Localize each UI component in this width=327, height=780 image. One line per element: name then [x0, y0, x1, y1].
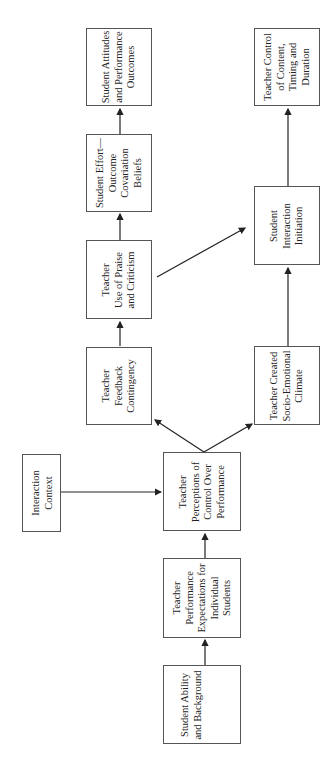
- node-label: Student Effort— Outcome Covariation Beli…: [94, 138, 144, 208]
- edge-perceptions-to-feedback: [155, 420, 204, 452]
- node-label: Student Interaction Initiation: [268, 203, 306, 248]
- node-label: Student Attitudes and Performance Outcom…: [100, 31, 138, 104]
- node-praise-criticism: Teacher Use of Praise and Criticism: [86, 240, 152, 319]
- node-teacher-control: Teacher Control of Content, Timing and D…: [254, 28, 320, 106]
- node-label: Teacher Performance Expectations for Ind…: [171, 563, 234, 632]
- node-student-attitudes: Student Attitudes and Performance Outcom…: [86, 28, 152, 106]
- node-label: Teacher Feedback Contingency: [100, 359, 138, 413]
- node-performance-expectations: Teacher Performance Expectations for Ind…: [163, 558, 241, 638]
- node-label: Teacher Perceptions of Control Over Perf…: [177, 461, 227, 521]
- node-student-ability: Student Ability and Background: [163, 665, 241, 744]
- node-label: Teacher Created Socio-Emotional Climate: [268, 350, 306, 421]
- node-label: Teacher Control of Content, Timing and D…: [262, 33, 312, 101]
- node-socio-emotional: Teacher Created Socio-Emotional Climate: [254, 346, 320, 425]
- node-student-effort: Student Effort— Outcome Covariation Beli…: [86, 134, 152, 212]
- node-interaction-context: Interaction Context: [22, 454, 61, 532]
- node-perceptions-control: Teacher Perceptions of Control Over Perf…: [163, 452, 241, 531]
- node-label: Interaction Context: [29, 470, 54, 515]
- edge-perceptions-to-socio: [204, 424, 252, 452]
- edge-praise-to-initiation: [157, 228, 245, 277]
- node-interaction-initiation: Student Interaction Initiation: [254, 186, 320, 265]
- node-label: Teacher Use of Praise and Criticism: [100, 251, 138, 308]
- node-feedback-contingency: Teacher Feedback Contingency: [86, 347, 152, 425]
- node-label: Student Ability and Background: [178, 670, 203, 739]
